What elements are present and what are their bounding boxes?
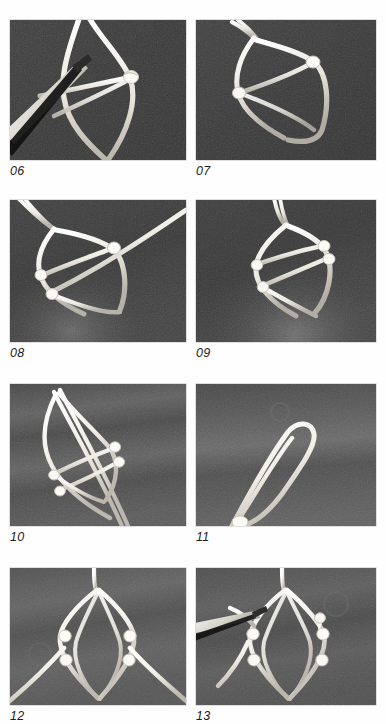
photo-panel-09[interactable] [196,200,376,342]
knot-10-c [49,470,60,480]
figure-12: 12 [10,568,186,723]
photo-image-08 [10,200,186,342]
knot-09-a [318,241,330,252]
photo-panel-13[interactable] [196,568,376,705]
knot-07-upper [306,56,320,68]
knot-07-lower [233,87,246,99]
photo-image-06 [10,20,186,160]
knot-13-tl [247,628,259,640]
figure-07: 07 [196,20,376,178]
photo-panel-12[interactable] [10,568,186,705]
photo-image-13 [196,568,376,705]
figure-caption: 07 [196,160,376,178]
photo-panel-08[interactable] [10,200,186,342]
figure-06: 06 [10,20,186,178]
knot-13-br [316,654,328,666]
knot-10-a [109,442,120,452]
knot-09-b [323,254,335,265]
knot-09-d [257,282,269,293]
knot-12-br [123,654,135,666]
figure-caption: 12 [10,705,186,723]
knot-12-tl [59,630,71,642]
knot-13-top-right [315,613,326,623]
figure-08: 08 [10,200,186,360]
photo-plate: 06 [0,0,386,724]
knot-10-b [113,457,124,467]
figure-caption: 06 [10,160,186,178]
knot-11 [232,516,248,526]
knot-12-bl [60,654,72,666]
knot-08-lower [46,289,58,300]
knot-10-d [55,486,66,496]
knot-13-tr [317,628,329,640]
photo-image-11 [196,384,376,526]
knot-13-bl [248,654,260,666]
photo-panel-11[interactable] [196,384,376,526]
knot-12-tr [124,630,136,642]
knot-08-upper [108,242,121,254]
figure-caption: 09 [196,342,376,360]
photo-image-12 [10,568,186,705]
figure-caption: 10 [10,526,186,544]
knot-09-c [251,260,263,271]
figure-09: 09 [196,200,376,360]
photo-image-10 [10,384,186,526]
photo-panel-07[interactable] [196,20,376,160]
knot-08-middle [35,270,47,281]
figure-caption: 11 [196,526,376,544]
figure-10: 10 [10,384,186,544]
figure-caption: 13 [196,705,376,723]
photo-image-09 [196,200,376,342]
photo-panel-10[interactable] [10,384,186,526]
knot-06 [124,71,139,84]
figure-13: 13 [196,568,376,723]
photo-panel-06[interactable] [10,20,186,160]
figure-caption: 08 [10,342,186,360]
figure-11: 11 [196,384,376,544]
photo-image-07 [196,20,376,160]
